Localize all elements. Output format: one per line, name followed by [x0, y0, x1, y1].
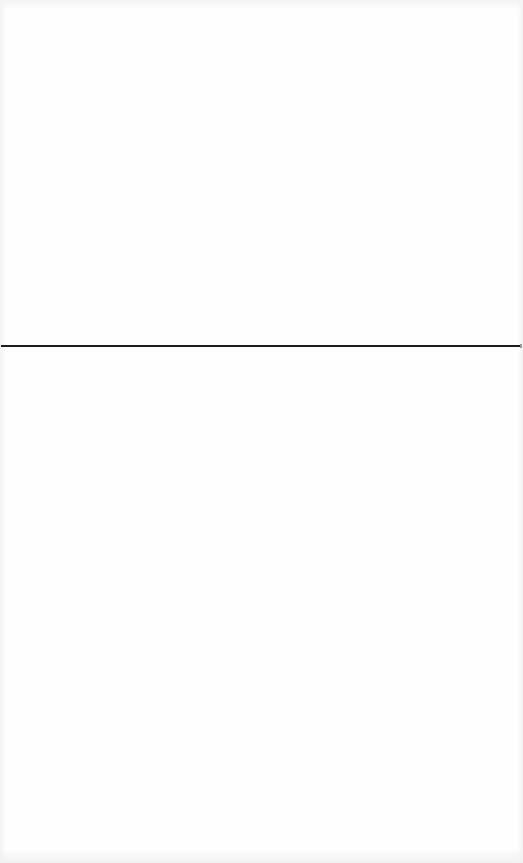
horizontal-divider	[1, 345, 521, 347]
page-edge-left	[0, 0, 6, 863]
blank-page	[0, 0, 523, 863]
page-edge-right	[517, 0, 523, 863]
page-edge-bottom	[0, 849, 523, 863]
divider-end-cap	[520, 344, 522, 348]
page-edge-top	[0, 0, 523, 10]
